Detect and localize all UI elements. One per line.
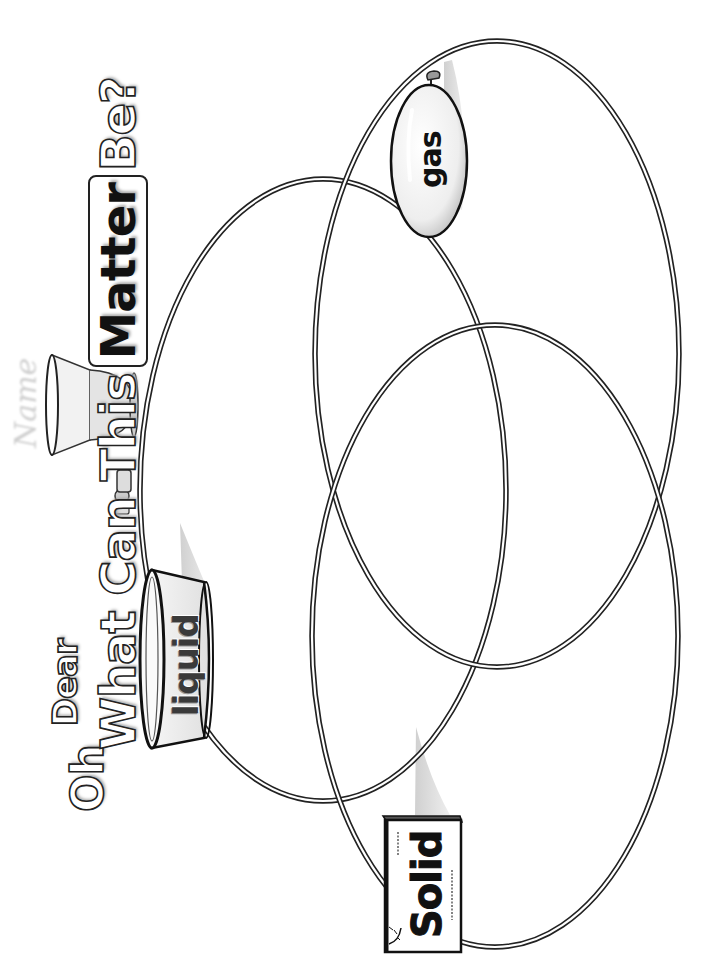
title-prefix: What Can This	[90, 373, 146, 750]
title-line-2: What Can ThisMatterBe?	[90, 77, 146, 750]
label-liquid: liquid	[166, 614, 206, 716]
title-dear: Dear	[45, 639, 85, 726]
ghost-name-label: Name	[8, 358, 43, 448]
label-solid: Solid	[404, 831, 450, 938]
worksheet-title: Oh Dear What Can ThisMatterBe?	[60, 172, 170, 812]
title-suffix: Be?	[90, 77, 146, 171]
title-oh: Oh	[62, 745, 113, 812]
title-highlight-matter: Matter	[88, 175, 148, 367]
label-gas: gas	[413, 131, 448, 188]
venn-circle-solid	[312, 325, 678, 947]
